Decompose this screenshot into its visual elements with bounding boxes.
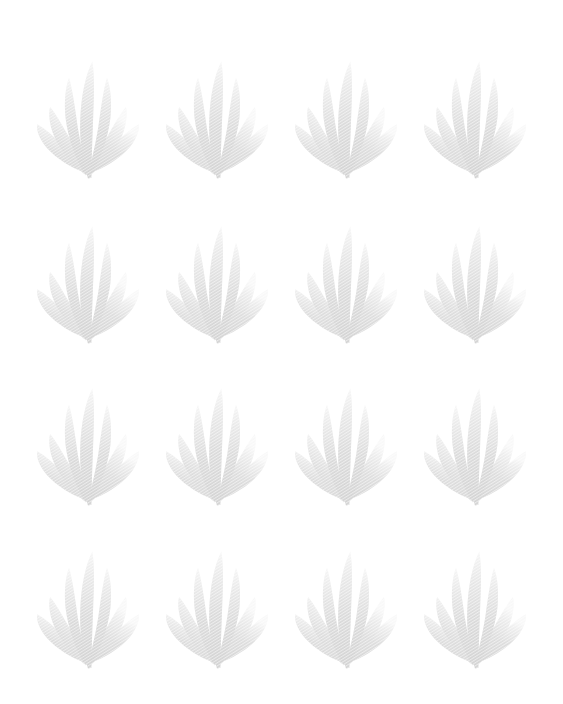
motif-stylized-plant-flame-sprig bbox=[290, 215, 402, 355]
motif-artwork bbox=[161, 50, 273, 190]
motif-artwork bbox=[290, 215, 402, 355]
motif-stylized-plant-flame-sprig bbox=[161, 540, 273, 680]
motif-artwork bbox=[161, 377, 273, 517]
motif-artwork bbox=[419, 215, 531, 355]
motif-stylized-plant-flame-sprig bbox=[419, 215, 531, 355]
motif-stylized-plant-flame-sprig bbox=[32, 540, 144, 680]
motif-artwork bbox=[32, 377, 144, 517]
motif-stylized-plant-flame-sprig bbox=[290, 377, 402, 517]
watermark-pattern-canvas: Decorative Watermark Background bbox=[0, 0, 563, 704]
motif-stylized-plant-flame-sprig bbox=[161, 377, 273, 517]
motif-artwork bbox=[32, 540, 144, 680]
motif-artwork bbox=[419, 540, 531, 680]
motif-stylized-plant-flame-sprig bbox=[290, 540, 402, 680]
motif-stylized-plant-flame-sprig bbox=[290, 50, 402, 190]
motif-stylized-plant-flame-sprig bbox=[161, 50, 273, 190]
motif-stylized-plant-flame-sprig bbox=[32, 215, 144, 355]
motif-stylized-plant-flame-sprig bbox=[32, 50, 144, 190]
motif-stylized-plant-flame-sprig bbox=[419, 50, 531, 190]
motif-artwork bbox=[161, 215, 273, 355]
motif-stylized-plant-flame-sprig bbox=[419, 377, 531, 517]
motif-artwork bbox=[290, 540, 402, 680]
motif-stylized-plant-flame-sprig bbox=[32, 377, 144, 517]
motif-artwork bbox=[161, 540, 273, 680]
motif-artwork bbox=[290, 50, 402, 190]
motif-stylized-plant-flame-sprig bbox=[161, 215, 273, 355]
motif-artwork bbox=[419, 377, 531, 517]
motif-stylized-plant-flame-sprig bbox=[419, 540, 531, 680]
motif-artwork bbox=[290, 377, 402, 517]
motif-artwork bbox=[419, 50, 531, 190]
motif-artwork bbox=[32, 50, 144, 190]
motif-artwork bbox=[32, 215, 144, 355]
